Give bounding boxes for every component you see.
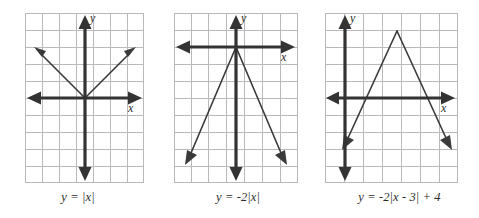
absolute-value-graph-3 <box>325 13 458 183</box>
graph-panel-1: y x y = |x| <box>0 0 156 218</box>
panel-caption-2: y = -2|x| <box>158 190 318 205</box>
caption-text-1: y = |x| <box>61 190 94 204</box>
y-axis-label-1: y <box>90 11 95 26</box>
graph-panel-2: y x y = -2|x| <box>158 0 318 218</box>
curve-arrowheads-3 <box>342 135 452 150</box>
y-axis-label-2: y <box>241 11 246 26</box>
graph-panel-3: y x y = -2|x - 3| + 4 <box>320 0 479 218</box>
panel-caption-3: y = -2|x - 3| + 4 <box>320 190 479 205</box>
absolute-value-graph-1 <box>25 13 144 183</box>
plot-area-2: y x <box>174 13 298 183</box>
caption-text-2: y = -2|x| <box>216 190 260 204</box>
x-axis-label-2: x <box>281 50 286 65</box>
caption-text-3: y = -2|x - 3| + 4 <box>358 190 440 204</box>
figure-canvas: y x y = |x| <box>0 0 479 218</box>
axes-1 <box>34 23 136 173</box>
y-axis-label-3: y <box>350 11 355 26</box>
absolute-value-graph-2 <box>174 13 298 183</box>
x-axis-label-3: x <box>441 101 446 116</box>
plot-area-1: y x <box>25 13 144 183</box>
x-axis-label-1: x <box>128 101 133 116</box>
panel-caption-1: y = |x| <box>0 190 156 205</box>
plot-area-3: y x <box>325 13 458 183</box>
